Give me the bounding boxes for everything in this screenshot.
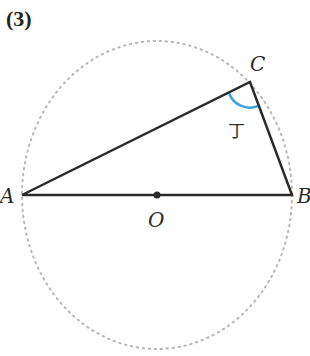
label-o: O (148, 208, 164, 232)
triangle-abc (22, 82, 292, 195)
label-b: B (297, 184, 310, 208)
label-c: C (250, 52, 265, 76)
label-a: A (0, 184, 14, 208)
center-point-o (154, 192, 161, 199)
angle-mark-label: 丁 (228, 117, 245, 142)
